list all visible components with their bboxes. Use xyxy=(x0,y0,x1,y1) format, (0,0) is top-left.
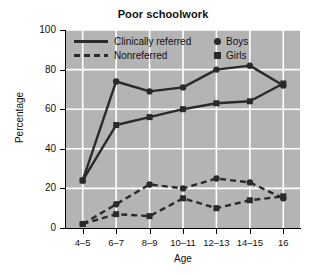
x-axis-tick xyxy=(283,229,284,234)
x-axis-title: Age xyxy=(66,253,300,264)
data-point-circle xyxy=(180,84,186,90)
dashed-line-swatch-icon xyxy=(74,54,108,57)
x-axis-tick xyxy=(183,229,184,234)
x-axis-tick xyxy=(250,229,251,234)
data-point-square xyxy=(80,221,86,227)
data-point-circle xyxy=(180,185,186,191)
circle-marker-icon xyxy=(214,38,221,45)
data-point-circle xyxy=(146,181,152,187)
data-point-square xyxy=(180,195,186,201)
data-point-square xyxy=(213,205,219,211)
data-point-square xyxy=(280,80,286,86)
legend-label: Clinically referred xyxy=(114,35,191,48)
data-point-square xyxy=(247,98,253,104)
data-point-square xyxy=(113,211,119,217)
solid-line-swatch-icon xyxy=(74,40,108,43)
x-axis-tick xyxy=(216,229,217,234)
x-axis-tick xyxy=(150,229,151,234)
legend-label: Nonreferred xyxy=(114,49,167,62)
data-point-square xyxy=(147,114,153,120)
x-axis-tick-label: 16 xyxy=(260,237,306,248)
chart-title: Poor schoolwork xyxy=(0,8,326,20)
legend-label: Girls xyxy=(226,49,247,62)
data-point-square xyxy=(280,193,286,199)
x-axis-tick xyxy=(116,229,117,234)
data-point-circle xyxy=(247,179,253,185)
legend-label: Boys xyxy=(226,35,248,48)
data-point-circle xyxy=(213,175,219,181)
data-point-square xyxy=(147,213,153,219)
y-axis-tick xyxy=(60,149,65,150)
x-axis-tick xyxy=(83,229,84,234)
y-axis-line xyxy=(65,30,66,229)
y-axis-tick xyxy=(60,30,65,31)
data-point-circle xyxy=(113,201,119,207)
data-point-square xyxy=(180,106,186,112)
data-point-square xyxy=(213,100,219,106)
y-axis-tick xyxy=(60,228,65,229)
chart-legend: Clinically referredNonreferredBoysGirls xyxy=(74,35,294,65)
y-axis-tick xyxy=(60,70,65,71)
chart-figure: Poor schoolwork 020406080100 4–56–78–910… xyxy=(0,0,326,275)
y-axis-tick-label: 100 xyxy=(12,24,56,35)
data-point-circle xyxy=(146,88,152,94)
data-point-square xyxy=(113,122,119,128)
y-axis-tick-label: 0 xyxy=(12,222,56,233)
data-point-square xyxy=(247,197,253,203)
y-axis-tick xyxy=(60,109,65,110)
y-axis-tick xyxy=(60,188,65,189)
y-axis-title: Percentage xyxy=(14,68,25,168)
square-marker-icon xyxy=(214,52,221,59)
data-point-square xyxy=(80,177,86,183)
data-point-circle xyxy=(213,66,219,72)
data-point-circle xyxy=(113,78,119,84)
y-axis-tick-label: 20 xyxy=(12,182,56,193)
